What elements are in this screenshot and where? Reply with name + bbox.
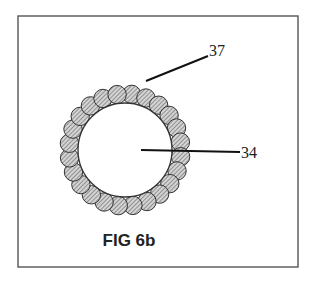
bead	[108, 85, 126, 103]
leader-line-37	[146, 56, 208, 81]
figure-caption: FIG 6b	[103, 231, 156, 250]
reference-label-37: 37	[209, 42, 225, 59]
patent-figure: 3734 FIG 6b	[0, 0, 316, 286]
reference-label-34: 34	[241, 144, 257, 161]
